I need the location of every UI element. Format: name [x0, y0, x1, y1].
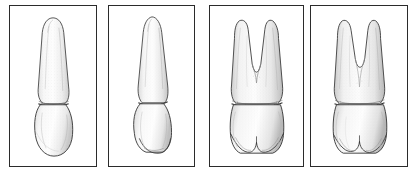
dental-anatomy-figure: Maxillary first premolar — four aspects … — [0, 0, 416, 172]
tooth-panel-4 — [310, 5, 408, 167]
tooth-illustration-single-root-distal — [109, 6, 194, 166]
tooth-illustration-single-root-mesial — [10, 6, 96, 166]
tooth-panel-2 — [108, 5, 195, 167]
tooth-panel-1 — [9, 5, 97, 167]
tooth-illustration-bifurcated-lingual — [311, 6, 407, 166]
tooth-illustration-bifurcated-buccal — [210, 6, 303, 166]
tooth-panel-3 — [209, 5, 304, 167]
